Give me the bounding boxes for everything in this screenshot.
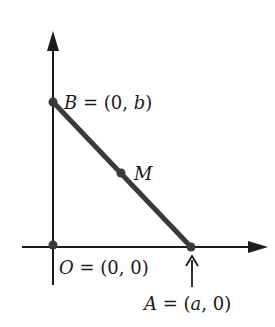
y-axis-arrow-icon [47,31,59,51]
label-a: A = (a, 0) [142,293,231,314]
point-m [117,169,126,178]
point-o [49,241,58,250]
point-b [49,98,58,107]
point-a [187,243,196,252]
label-b: B = (0, b) [63,92,152,113]
label-o: O = (0, 0) [59,257,149,278]
label-m: M [133,163,153,184]
x-axis-arrow-icon [248,241,268,253]
coordinate-diagram: B = (0, b) M O = (0, 0) A = (a, 0) [0,0,275,327]
